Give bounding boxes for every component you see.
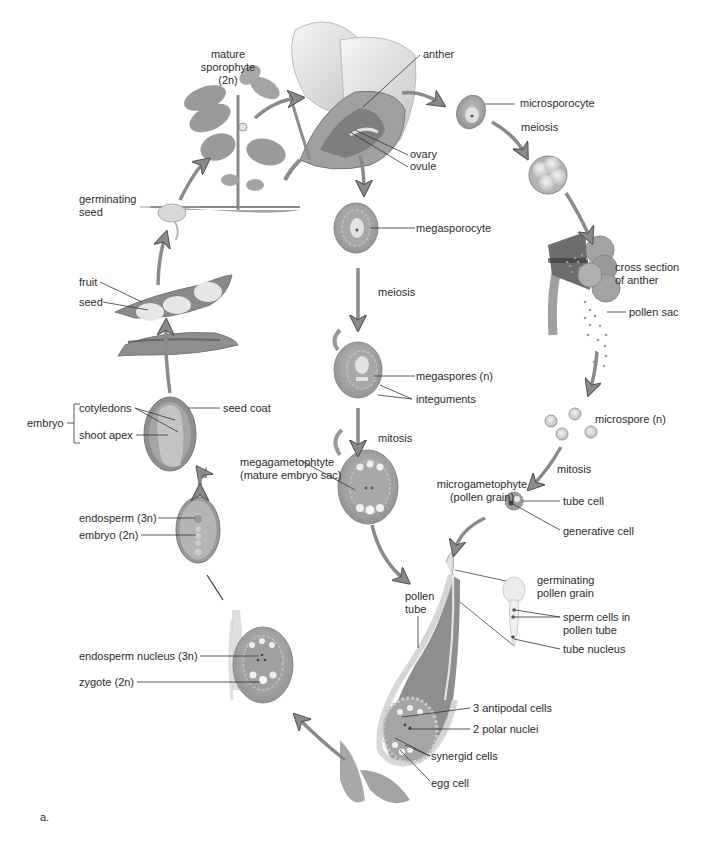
arrow-anther-to-microspores	[590, 352, 597, 390]
label-megasporocyte: megasporocyte	[416, 222, 491, 235]
fruit-pod	[115, 275, 238, 356]
angiosperm-life-cycle-diagram: mature sporophyte (2n) anther ovary ovul…	[0, 0, 705, 844]
label-line: of anther	[615, 274, 679, 287]
label-line: germinating	[79, 193, 136, 206]
megaspores-ovule	[334, 330, 382, 398]
label-line: microgametophyte	[420, 478, 544, 491]
label-synergid-cells: synergid cells	[431, 750, 498, 763]
leader-sperm-1	[515, 610, 560, 617]
microsporocyte-cell	[452, 91, 490, 133]
label-egg-cell: egg cell	[431, 777, 469, 790]
label-megagametophyte: megagametophtyte (mature embryo sac)	[240, 456, 341, 482]
cycle-arrows	[158, 92, 597, 760]
label-line: seed	[79, 206, 136, 219]
anther-cross-section	[548, 232, 620, 367]
arrow-fruit-to-germinating-seed	[158, 237, 165, 285]
fertilization-ovule	[340, 552, 460, 803]
label-line: cross section	[615, 261, 679, 274]
label-line: tube	[405, 603, 434, 616]
label-polar-nuclei: 2 polar nuclei	[473, 723, 538, 736]
label-line: sporophyte	[188, 61, 268, 74]
label-mitosis-male: mitosis	[557, 463, 591, 476]
label-line: sperm cells in	[563, 611, 630, 624]
label-endosperm: endosperm (3n)	[79, 512, 157, 525]
label-seed-coat: seed coat	[223, 402, 271, 415]
label-tube-cell: tube cell	[563, 495, 604, 508]
label-pollen-sac: pollen sac	[629, 306, 679, 319]
label-tube-nucleus: tube nucleus	[563, 643, 625, 656]
label-antipodal-cells: 3 antipodal cells	[473, 702, 552, 715]
label-mature-sporophyte: mature sporophyte (2n)	[188, 48, 268, 87]
label-line: germinating	[537, 574, 594, 587]
label-microsporocyte: microsporocyte	[520, 97, 595, 110]
panel-label: a.	[40, 811, 49, 824]
label-line: megagametophtyte	[240, 456, 341, 469]
label-endosperm-nucleus: endosperm nucleus (3n)	[79, 650, 198, 663]
label-mitosis-female: mitosis	[378, 432, 412, 445]
zygote-ovule	[230, 610, 293, 703]
label-line: pollen	[405, 590, 434, 603]
label-sperm-cells: sperm cells in pollen tube	[563, 611, 630, 637]
label-germinating-pollen-grain: germinating pollen grain	[537, 574, 594, 600]
arrow-fertilization-to-zygote	[298, 718, 345, 760]
label-megaspores: megaspores (n)	[416, 370, 493, 383]
flower	[285, 22, 416, 180]
label-line: pollen tube	[563, 624, 630, 637]
microspores	[545, 408, 597, 440]
label-microspore: microspore (n)	[595, 413, 666, 426]
leader-tube-nucleus	[514, 639, 560, 649]
label-fruit: fruit	[79, 276, 97, 289]
label-cross-section-anther: cross section of anther	[615, 261, 679, 287]
label-pollen-tube: pollen tube	[405, 590, 434, 616]
arrow-germinating-to-sporophyte	[180, 162, 205, 200]
label-zygote: zygote (2n)	[79, 676, 134, 689]
leader-generative-cell	[513, 504, 560, 530]
arrow-embryo-sac-to-fertilization	[372, 525, 405, 580]
label-microgametophyte: microgametophyte (pollen grain)	[420, 478, 544, 504]
label-embryo: embryo	[27, 417, 64, 430]
label-line: mature	[188, 48, 268, 61]
label-germinating-seed: germinating seed	[79, 193, 136, 219]
label-meiosis-female: meiosis	[378, 286, 415, 299]
label-line: pollen grain	[537, 587, 594, 600]
label-line: (pollen grain)	[420, 491, 544, 504]
developing-seed	[176, 497, 223, 600]
microspore-tetrad	[529, 156, 567, 194]
germinating-pollen-inset	[455, 570, 525, 647]
label-cotyledons: cotyledons	[79, 402, 132, 415]
label-generative-cell: generative cell	[563, 525, 634, 538]
label-line: (mature embryo sac)	[240, 469, 341, 482]
label-shoot-apex: shoot apex	[79, 429, 133, 442]
label-meiosis-male: meiosis	[521, 121, 558, 134]
arrow-pollen-to-stigma	[455, 518, 485, 550]
label-embryo-2n: embryo (2n)	[79, 529, 138, 542]
label-anther: anther	[423, 48, 454, 61]
leader-fruit	[100, 282, 142, 302]
label-integuments: integuments	[416, 393, 476, 406]
label-seed: seed	[79, 296, 103, 309]
label-line: (2n)	[188, 74, 268, 87]
arrow-tetrad-to-anther	[566, 193, 590, 238]
label-ovule: ovule	[410, 160, 436, 173]
